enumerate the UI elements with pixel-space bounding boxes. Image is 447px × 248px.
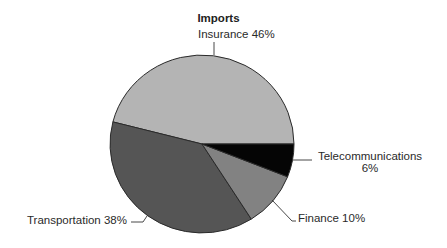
label-telecommunications-name: Telecommunications (314, 150, 426, 162)
leader-line-finance (272, 200, 296, 221)
label-telecommunications: Telecommunications 6% (314, 150, 426, 174)
label-transportation: Transportation 38% (27, 214, 127, 226)
label-insurance: Insurance 46% (198, 28, 275, 40)
leader-line-transportation (131, 216, 147, 222)
pie-chart: Imports Insurance 46% Telecommunications… (0, 0, 447, 248)
label-telecommunications-value: 6% (314, 162, 426, 174)
label-finance: Finance 10% (298, 212, 365, 224)
